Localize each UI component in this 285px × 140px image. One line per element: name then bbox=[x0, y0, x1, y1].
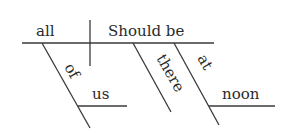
subject-word: all bbox=[36, 22, 55, 40]
at-word: at bbox=[194, 51, 217, 73]
noon-word: noon bbox=[222, 85, 260, 103]
of-word: of bbox=[61, 60, 85, 83]
diagram-canvas: all Should be of us there at noon bbox=[0, 0, 285, 140]
of-slant-line bbox=[42, 43, 90, 128]
us-word: us bbox=[92, 85, 109, 103]
predicate-word: Should be bbox=[108, 22, 184, 40]
sentence-diagram: all Should be of us there at noon bbox=[0, 0, 285, 140]
